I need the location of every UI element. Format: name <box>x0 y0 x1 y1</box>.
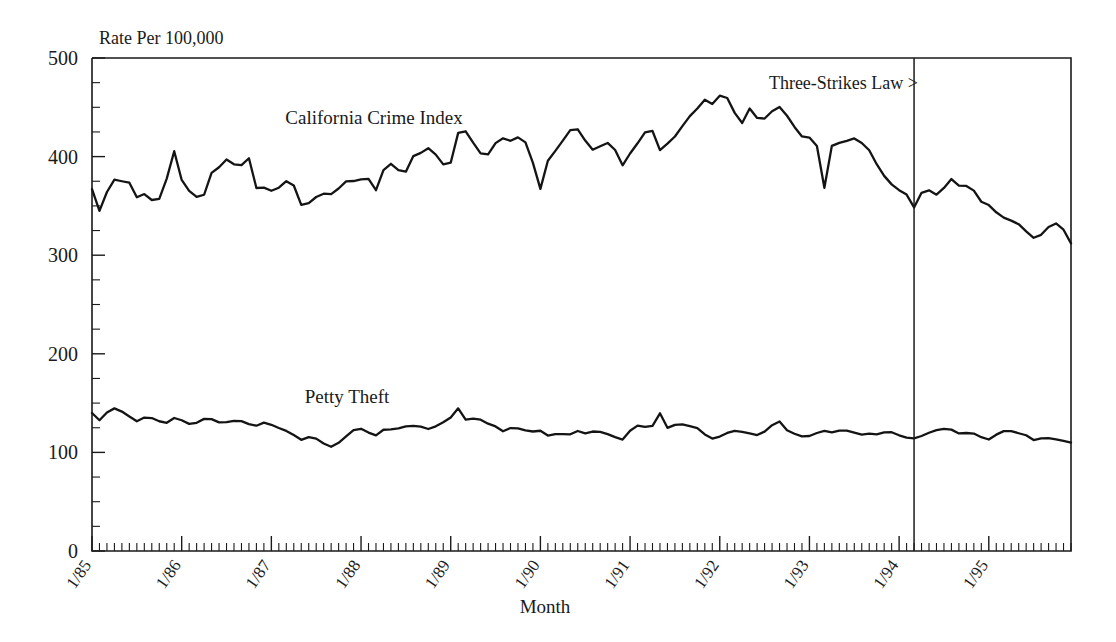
x-tick-label: 1/90 <box>511 556 544 592</box>
series-line-california-crime-index <box>92 96 1071 244</box>
y-tick-label: 300 <box>48 244 78 266</box>
x-tick-label: 1/93 <box>780 556 813 592</box>
series-label-petty-theft: Petty Theft <box>305 386 390 407</box>
series-label-california-crime-index: California Crime Index <box>285 107 463 128</box>
three-strikes-law-annotation: Three-Strikes Law > <box>769 73 918 93</box>
series-line-petty-theft <box>92 408 1071 446</box>
x-tick-label: 1/89 <box>421 556 454 592</box>
y-tick-label: 400 <box>48 146 78 168</box>
x-axis-title: Month <box>520 596 571 617</box>
x-tick-label: 1/91 <box>600 556 633 592</box>
y-axis-unit-label: Rate Per 100,000 <box>99 28 223 48</box>
x-tick-label: 1/92 <box>690 556 723 592</box>
x-tick-label: 1/87 <box>242 556 275 592</box>
x-axis-labels: 1/851/861/871/881/891/901/911/921/931/94… <box>62 556 992 592</box>
x-axis-ticks <box>92 536 1071 551</box>
y-tick-label: 100 <box>48 441 78 463</box>
x-tick-label: 1/86 <box>152 556 185 592</box>
x-tick-label: 1/88 <box>331 556 364 592</box>
crime-index-chart: 0100200300400500 1/851/861/871/881/891/9… <box>0 0 1116 642</box>
x-tick-label: 1/95 <box>959 556 992 592</box>
chart-canvas: 0100200300400500 1/851/861/871/881/891/9… <box>0 0 1116 642</box>
y-axis-ticks <box>92 58 105 551</box>
x-tick-label: 1/94 <box>869 556 902 592</box>
y-tick-label: 0 <box>68 540 78 562</box>
data-series-layer <box>92 96 1071 447</box>
y-axis-labels: 0100200300400500 <box>48 47 78 562</box>
plot-frame <box>92 58 1071 551</box>
y-tick-label: 200 <box>48 343 78 365</box>
y-tick-label: 500 <box>48 47 78 69</box>
